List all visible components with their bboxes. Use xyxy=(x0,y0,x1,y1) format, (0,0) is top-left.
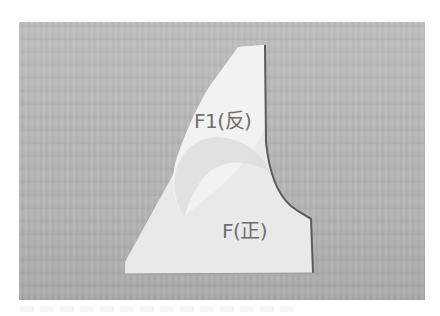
fabric-pieces xyxy=(19,22,425,300)
label-f-front: F(正) xyxy=(222,221,267,241)
label-f1-reverse: F1(反) xyxy=(194,111,251,131)
faded-caption xyxy=(20,306,300,312)
fabric-photo: F1(反) F(正) xyxy=(19,22,425,300)
